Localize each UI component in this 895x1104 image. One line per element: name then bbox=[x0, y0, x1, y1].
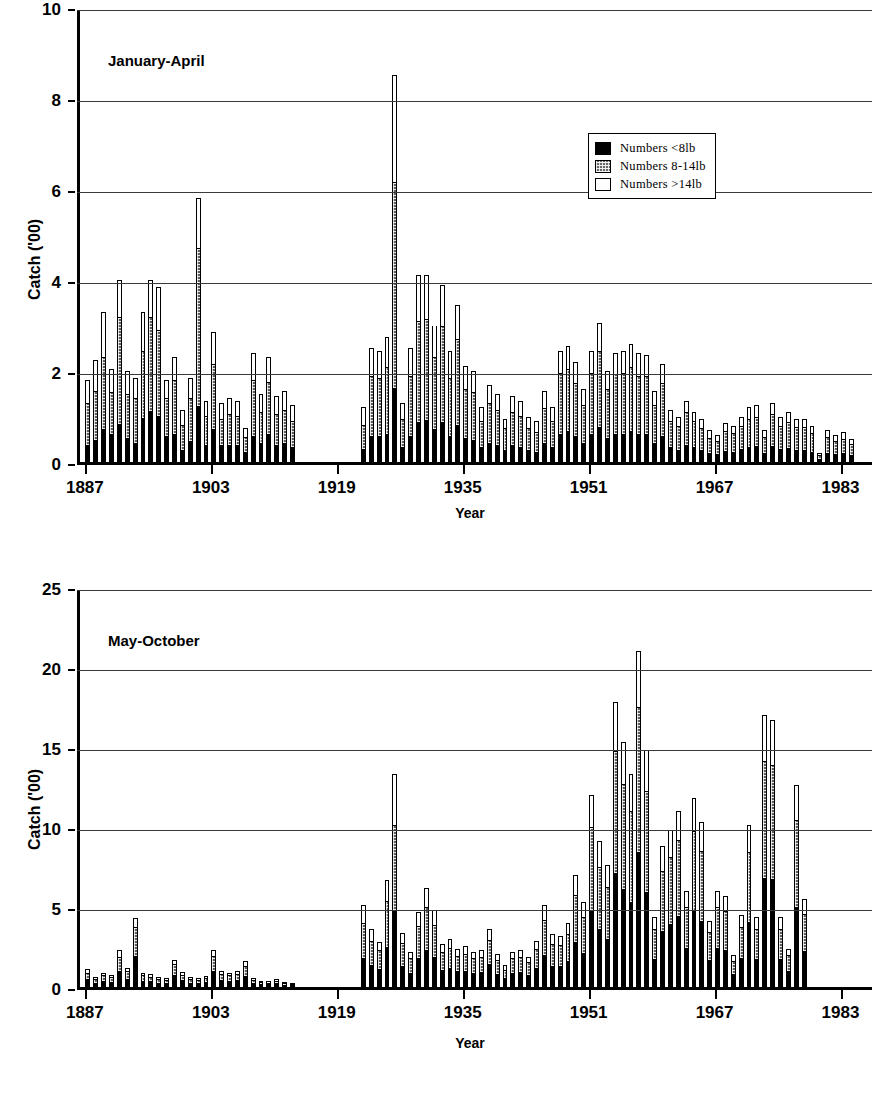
bar-segment-large bbox=[630, 775, 633, 810]
bar bbox=[416, 912, 421, 987]
bar-segment-small bbox=[110, 435, 113, 461]
bar-segment-small bbox=[142, 982, 145, 986]
bar-segment-medium bbox=[732, 961, 735, 975]
bar-segment-small bbox=[157, 984, 160, 986]
bar-segment-medium bbox=[488, 940, 491, 965]
bar-segment-small bbox=[244, 977, 247, 986]
bar-segment-medium bbox=[763, 761, 766, 879]
bar-segment-medium bbox=[779, 929, 782, 960]
bar-segment-medium bbox=[362, 923, 365, 958]
bar-segment-small bbox=[236, 446, 239, 461]
bar bbox=[148, 974, 153, 987]
x-tick-label: 1983 bbox=[822, 1003, 860, 1023]
bar-segment-small bbox=[165, 984, 168, 986]
bar-segment-large bbox=[811, 427, 814, 434]
bar-segment-large bbox=[134, 379, 137, 399]
bar bbox=[455, 305, 460, 462]
bar-segment-medium bbox=[787, 955, 790, 972]
bar-segment-small bbox=[842, 454, 845, 461]
y-tick-label: 2 bbox=[15, 364, 61, 384]
bar-segment-medium bbox=[693, 831, 696, 913]
y-tick-label: 10 bbox=[15, 0, 61, 20]
bar-segment-small bbox=[378, 970, 381, 986]
bar-segment-medium bbox=[244, 966, 247, 977]
bar bbox=[660, 846, 665, 987]
bar-segment-medium bbox=[86, 973, 89, 981]
bar bbox=[534, 421, 539, 462]
bar-segment-medium bbox=[834, 441, 837, 455]
bar bbox=[802, 419, 807, 462]
bar-segment-small bbox=[574, 943, 577, 986]
bar bbox=[676, 417, 681, 463]
bar-segment-small bbox=[826, 454, 829, 461]
bar-segment-large bbox=[535, 942, 538, 949]
bar bbox=[739, 915, 744, 987]
bar-segment-medium bbox=[496, 960, 499, 974]
bar bbox=[211, 332, 216, 462]
bar bbox=[133, 918, 138, 987]
bar-segment-small bbox=[693, 912, 696, 986]
bar-segment-small bbox=[409, 437, 412, 461]
bar bbox=[259, 394, 264, 462]
x-tick-mark bbox=[85, 465, 87, 474]
bar bbox=[534, 941, 539, 987]
bar-segment-medium bbox=[291, 421, 294, 448]
bar bbox=[518, 401, 523, 462]
bar bbox=[636, 353, 641, 462]
bar bbox=[266, 981, 271, 987]
bar-segment-small bbox=[590, 435, 593, 461]
bar bbox=[825, 430, 830, 462]
bar bbox=[125, 371, 130, 462]
bar-segment-medium bbox=[669, 857, 672, 925]
bar-segment-small bbox=[181, 451, 184, 462]
bar bbox=[786, 949, 791, 987]
bar bbox=[377, 351, 382, 462]
bar-segment-large bbox=[488, 930, 491, 940]
bar-segment-small bbox=[598, 428, 601, 461]
bar-segment-small bbox=[252, 437, 255, 461]
bar-segment-medium bbox=[142, 351, 145, 419]
bar bbox=[164, 380, 169, 462]
x-tick-mark bbox=[85, 990, 87, 999]
bar-segment-small bbox=[763, 454, 766, 461]
bar-segment-medium bbox=[724, 431, 727, 452]
bar-segment-large bbox=[693, 413, 696, 421]
bar-segment-large bbox=[267, 358, 270, 382]
bar bbox=[219, 971, 224, 987]
gridline bbox=[77, 192, 872, 193]
bar-segment-medium bbox=[795, 820, 798, 907]
bar-segment-medium bbox=[488, 403, 491, 444]
bar bbox=[605, 865, 610, 987]
bar-segment-large bbox=[637, 652, 640, 707]
bar-segment-large bbox=[740, 916, 743, 927]
bar-segment-large bbox=[417, 913, 420, 927]
bar bbox=[188, 378, 193, 462]
gridline bbox=[77, 10, 872, 11]
bar-segment-small bbox=[449, 969, 452, 986]
bar-segment-small bbox=[181, 981, 184, 986]
bar bbox=[817, 453, 822, 462]
bar-segment-medium bbox=[622, 784, 625, 890]
bar-segment-small bbox=[708, 454, 711, 461]
bar-segment-medium bbox=[551, 421, 554, 448]
bar bbox=[754, 917, 759, 987]
bar bbox=[636, 651, 641, 987]
x-tick-label: 1919 bbox=[318, 1003, 356, 1023]
legend-item-small: Numbers <8lb bbox=[595, 139, 706, 157]
bar-segment-medium bbox=[118, 317, 121, 426]
bar-segment-small bbox=[197, 984, 200, 986]
bar bbox=[526, 417, 531, 463]
bar bbox=[196, 978, 201, 987]
bar-segment-small bbox=[622, 890, 625, 986]
y-tick-mark bbox=[68, 100, 75, 102]
bar-segment-large bbox=[102, 313, 105, 357]
bar bbox=[747, 825, 752, 987]
bar-segment-small bbox=[653, 960, 656, 986]
bar-segment-small bbox=[504, 979, 507, 986]
bar bbox=[424, 888, 429, 987]
bar bbox=[802, 899, 807, 987]
bar-segment-medium bbox=[236, 416, 239, 446]
legend-item-medium: Numbers 8-14lb bbox=[595, 157, 706, 175]
bar bbox=[676, 811, 681, 987]
bar-segment-medium bbox=[496, 410, 499, 446]
